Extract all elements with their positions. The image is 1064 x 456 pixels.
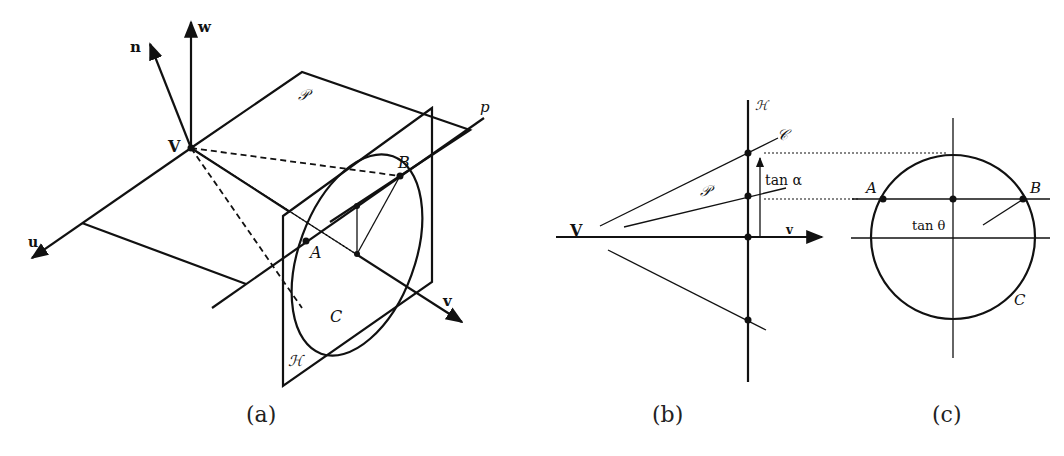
caption-b: (b) xyxy=(652,402,683,427)
line-c-upper xyxy=(600,138,778,226)
point-c-top xyxy=(745,150,752,157)
line-p xyxy=(212,118,484,308)
label-tan-alpha: tan α xyxy=(765,172,802,188)
caption-a: (a) xyxy=(246,402,276,427)
label-tan-theta: tan θ xyxy=(912,218,945,233)
label-C: 𝒞 xyxy=(777,126,792,144)
point-c-bottom xyxy=(745,317,752,324)
label-line-p: p xyxy=(480,98,490,116)
label-B: B xyxy=(1029,179,1041,197)
label-v: v xyxy=(442,292,453,310)
line-c-lower xyxy=(608,250,766,330)
label-C: C xyxy=(330,307,342,326)
panel-c: A B C tan θ (c) xyxy=(851,118,1050,427)
inner-radius xyxy=(357,176,400,254)
plane-p-outline xyxy=(191,72,470,222)
label-A: A xyxy=(864,179,877,197)
label-A: A xyxy=(308,243,322,262)
n-axis-arrow xyxy=(150,44,191,148)
cone-line-b xyxy=(191,148,400,176)
point-p xyxy=(745,193,752,200)
point-b xyxy=(397,173,404,180)
v-axis-arrow xyxy=(356,254,462,322)
tan-theta-pointer xyxy=(983,200,1022,225)
label-P: 𝒫 xyxy=(700,182,715,200)
point-a xyxy=(880,196,887,203)
label-w: w xyxy=(197,18,212,36)
label-B: B xyxy=(397,153,410,172)
point-v xyxy=(188,145,195,152)
label-V: V xyxy=(167,137,181,156)
u-axis-arrow xyxy=(32,148,191,258)
label-V: V xyxy=(569,221,583,240)
point-center-top xyxy=(950,196,957,203)
label-C: C xyxy=(1014,291,1026,309)
cone-line-a xyxy=(191,148,290,212)
label-plane-p: 𝒫 xyxy=(298,86,313,104)
label-plane-h: ℋ xyxy=(288,352,305,370)
figure-canvas: w n V u v 𝒫 p B A C ℋ (a) ℋ 𝒞 𝒫 tan α V … xyxy=(0,0,1064,456)
point-c-center xyxy=(354,251,360,257)
label-u: u xyxy=(28,234,38,250)
point-b xyxy=(1020,196,1027,203)
panel-a: w n V u v 𝒫 p B A C ℋ (a) xyxy=(28,18,490,427)
label-n: n xyxy=(130,38,141,56)
label-H: ℋ xyxy=(755,98,770,113)
caption-c: (c) xyxy=(932,402,962,427)
point-p-center xyxy=(354,203,360,209)
point-origin xyxy=(745,234,752,241)
plane-p-lower-edge xyxy=(82,223,246,284)
point-a xyxy=(303,238,310,245)
panel-b: ℋ 𝒞 𝒫 tan α V v (b) xyxy=(556,98,948,427)
label-v: v xyxy=(785,223,794,237)
